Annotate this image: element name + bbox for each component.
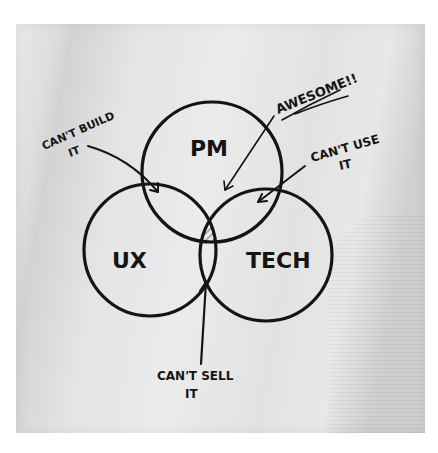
awesome-label: AWESOME!!: [274, 70, 360, 116]
pm-circle: [142, 102, 282, 242]
awesome-annotation: AWESOME!!: [224, 70, 360, 190]
awesome-arrow: [225, 116, 274, 190]
cant-sell-line2: IT: [185, 387, 198, 401]
tech-label: TECH: [246, 248, 311, 273]
cant-sell-line1: CAN'T SELL: [157, 369, 234, 383]
cant-use-line2: IT: [338, 156, 354, 172]
cant-sell-arrow: [201, 282, 206, 364]
ux-label: UX: [112, 248, 147, 273]
cant-build-line2: IT: [67, 143, 83, 159]
pm-label: PM: [190, 136, 228, 161]
cant-build-annotation: CAN'T BUILD IT: [40, 109, 158, 192]
venn-diagram: PM UX TECH CAN'T BUILD IT AWESOME!! CAN'…: [0, 0, 438, 453]
